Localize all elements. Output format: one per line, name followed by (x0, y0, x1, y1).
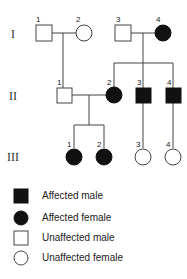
individual-II-2 (106, 87, 122, 103)
number-I-3: 3 (116, 15, 121, 24)
number-III-1: 1 (67, 140, 72, 149)
unaffected-male-legend-icon (14, 231, 28, 245)
generation-label-II: II (9, 89, 17, 103)
number-I-4: 4 (156, 15, 161, 24)
legend-label-unaffected-female: Unaffected female (42, 252, 123, 263)
number-II-4: 4 (167, 78, 172, 87)
individual-III-4 (165, 149, 181, 165)
generation-label-III: III (7, 150, 19, 164)
individual-II-1 (57, 88, 72, 103)
individual-III-2 (96, 149, 112, 165)
pedigree-chart: I II III 1 2 3 4 1 2 3 4 1 (0, 0, 187, 279)
individual-III-3 (135, 149, 151, 165)
affected-male-legend-icon (14, 189, 28, 203)
number-II-3: 3 (137, 78, 142, 87)
number-III-2: 2 (97, 140, 102, 149)
affected-female-legend-icon (14, 211, 28, 225)
individual-III-1 (66, 149, 82, 165)
number-II-2: 2 (107, 78, 112, 87)
individual-II-3 (136, 88, 151, 103)
individual-I-4 (155, 25, 171, 41)
number-III-3: 3 (136, 140, 141, 149)
legend-label-affected-male: Affected male (42, 190, 103, 201)
legend-label-unaffected-male: Unaffected male (42, 232, 115, 243)
legend-label-affected-female: Affected female (42, 212, 112, 223)
generation-label-I: I (11, 27, 15, 41)
individual-I-1 (36, 25, 52, 41)
number-III-4: 4 (166, 140, 171, 149)
individual-II-4 (166, 88, 181, 103)
number-I-1: 1 (36, 15, 41, 24)
legend: Affected male Affected female Unaffected… (14, 189, 123, 265)
individual-I-3 (115, 25, 131, 41)
number-I-2: 2 (76, 15, 81, 24)
unaffected-female-legend-icon (14, 251, 28, 265)
individual-I-2 (76, 25, 92, 41)
number-II-1: 1 (57, 78, 62, 87)
